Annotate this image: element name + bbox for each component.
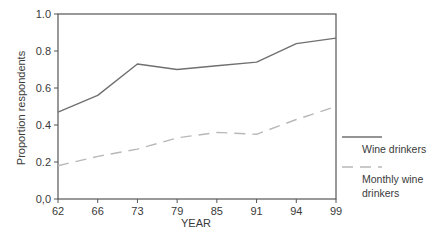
y-tick-label: 0,0 xyxy=(36,193,51,205)
line-chart: 0,00.20.40.60.81.0 6266737985919499 YEAR… xyxy=(0,0,443,236)
series-line-wine-drinkers xyxy=(58,38,336,112)
x-tick-label: 85 xyxy=(211,205,223,217)
y-axis: 0,00.20.40.60.81.0 xyxy=(36,8,58,205)
legend-label: drinkers xyxy=(362,187,399,199)
y-axis-title: Proportion respondents xyxy=(15,50,27,165)
plot-frame xyxy=(58,14,336,199)
series-line-monthly-wine-drinkers xyxy=(58,107,336,166)
x-axis-title: YEAR xyxy=(181,217,211,229)
legend-label: Wine drinkers xyxy=(362,143,426,155)
x-tick-label: 79 xyxy=(171,205,183,217)
legend-label: Monthly wine xyxy=(362,173,423,185)
x-tick-label: 66 xyxy=(92,205,104,217)
legend: Wine drinkersMonthly winedrinkers xyxy=(342,137,426,199)
x-tick-label: 62 xyxy=(52,205,64,217)
y-tick-label: 0.2 xyxy=(36,156,51,168)
x-axis: 6266737985919499 xyxy=(52,199,342,217)
x-tick-label: 91 xyxy=(250,205,262,217)
x-tick-label: 73 xyxy=(131,205,143,217)
series-layer xyxy=(58,38,336,166)
plot-border xyxy=(58,14,336,199)
y-tick-label: 0.4 xyxy=(36,119,51,131)
x-tick-label: 94 xyxy=(290,205,302,217)
y-tick-label: 1.0 xyxy=(36,8,51,20)
y-tick-label: 0.6 xyxy=(36,82,51,94)
y-tick-label: 0.8 xyxy=(36,45,51,57)
x-tick-label: 99 xyxy=(330,205,342,217)
